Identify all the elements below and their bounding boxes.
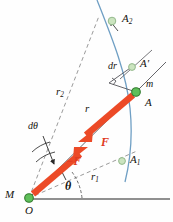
label-M: M (5, 189, 14, 200)
orbit-arc (97, 0, 131, 182)
label-A2: A2 (122, 13, 132, 26)
label-r2: r2 (56, 86, 64, 99)
label-m: m (146, 79, 153, 89)
point-A2-dot (108, 17, 116, 25)
label-A-prime: A' (140, 58, 149, 69)
label-theta: θ (65, 180, 71, 192)
point-A1-dot (119, 158, 126, 165)
physics-diagram-figure: A2 dr A' m A r2 r dθ F −F A1 r1 θ M O (0, 0, 173, 222)
label-r: r (85, 103, 89, 114)
label-A: A (145, 97, 152, 108)
label-dr: dr (108, 61, 117, 71)
point-A-mass-dot (132, 88, 141, 97)
label-A1: A1 (130, 154, 140, 167)
label-dtheta: dθ (28, 121, 38, 131)
point-O-mass-dot (25, 194, 34, 203)
label-r1: r1 (91, 171, 99, 184)
point-Aprime-dot (129, 64, 136, 71)
label-F: F (101, 136, 109, 148)
label-negative-F: −F (66, 155, 81, 167)
dtheta-leader-arrow (43, 136, 54, 164)
label-O: O (25, 205, 33, 216)
